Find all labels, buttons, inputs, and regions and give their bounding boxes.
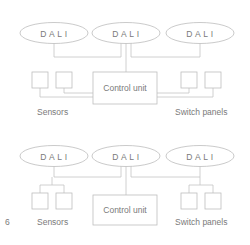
wire-right-dali: [131, 166, 200, 177]
sensors-bottom: Sensors: [32, 193, 72, 227]
dali-node-bottom-left: DALI: [20, 146, 88, 167]
switch-panel-box: [205, 72, 221, 88]
dali-node-bottom-middle: DALI: [92, 146, 160, 167]
switch-panel-box: [205, 193, 221, 209]
dali-node-top-left: DALI: [20, 23, 88, 44]
switch-panels-bottom: Switch panels: [175, 193, 227, 227]
dali-label: DALI: [40, 29, 69, 39]
switch-panels-label: Switch panels: [175, 107, 227, 117]
wire-sensor-branch: [40, 185, 64, 193]
wire-switch-branch: [189, 185, 213, 193]
dali-topology-diagrams: DALI DALI DALI Control unit Sensors Swit…: [0, 0, 250, 245]
dali-label: DALI: [112, 29, 141, 39]
switch-panel-box: [181, 193, 197, 209]
wire-right-dali: [131, 43, 200, 57]
dali-label: DALI: [186, 29, 215, 39]
dali-node-top-middle: DALI: [92, 23, 160, 44]
sensor-box: [56, 193, 72, 209]
switch-panels-label: Switch panels: [175, 217, 227, 227]
bottom-wires: [40, 166, 213, 195]
dali-label: DALI: [40, 152, 69, 162]
control-unit-bottom: Control unit: [93, 195, 157, 225]
wire-sensor-2: [64, 88, 93, 93]
diagram-top: DALI DALI DALI Control unit Sensors Swit…: [20, 23, 234, 118]
figure-number: 6: [5, 217, 10, 227]
switch-panels-top: Switch panels: [175, 72, 227, 117]
wire-sensor-1: [40, 88, 93, 97]
control-unit-label: Control unit: [103, 205, 147, 215]
dali-label: DALI: [186, 152, 215, 162]
sensor-box: [32, 193, 48, 209]
wire-switch-1: [157, 88, 189, 93]
wire-left-dali: [54, 166, 121, 177]
sensors-label: Sensors: [37, 107, 68, 117]
sensor-box: [32, 72, 48, 88]
sensor-box: [56, 72, 72, 88]
dali-node-top-right: DALI: [166, 23, 234, 44]
sensors-label: Sensors: [37, 217, 68, 227]
wire-left-dali: [54, 43, 121, 57]
control-unit-label: Control unit: [103, 83, 147, 93]
control-unit-top: Control unit: [93, 72, 157, 104]
dali-node-bottom-right: DALI: [166, 146, 234, 167]
sensors-top: Sensors: [32, 72, 72, 117]
switch-panel-box: [181, 72, 197, 88]
dali-label: DALI: [112, 152, 141, 162]
wire-switch-2: [157, 88, 213, 97]
diagram-bottom: DALI DALI DALI Control unit Sensors Swit…: [20, 146, 234, 228]
